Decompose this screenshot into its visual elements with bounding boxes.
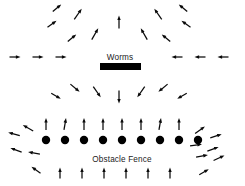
worms-field-arrow bbox=[158, 84, 167, 92]
worms-field-arrow bbox=[47, 21, 56, 27]
fence-dot bbox=[156, 136, 164, 144]
fence-field-arrow bbox=[139, 118, 142, 130]
arrow-head-icon bbox=[44, 118, 47, 123]
worms-field-arrow bbox=[181, 21, 190, 27]
fence-field-arrow bbox=[124, 168, 127, 179]
fence-field-arrow bbox=[82, 118, 85, 130]
arrow-head-icon bbox=[94, 28, 98, 33]
arrow-head-icon bbox=[16, 55, 21, 58]
worms-field-arrow bbox=[137, 87, 144, 98]
worms-bar bbox=[100, 63, 141, 70]
fence-dot bbox=[80, 136, 88, 144]
arrow-head-icon bbox=[218, 55, 223, 58]
arrow-head-icon bbox=[168, 168, 171, 173]
worms-field-arrow bbox=[154, 9, 161, 20]
fence-field-arrow bbox=[146, 168, 149, 179]
fence-field-arrow bbox=[102, 168, 105, 179]
arrow-head-icon bbox=[10, 148, 15, 151]
worms-field-arrow bbox=[117, 16, 120, 29]
arrow-head-icon bbox=[102, 168, 105, 173]
fence-field-arrow bbox=[31, 167, 40, 173]
arrow-head-icon bbox=[214, 147, 219, 150]
arrow-head-icon bbox=[39, 55, 44, 58]
fence-field-arrow bbox=[207, 147, 218, 151]
fence-field-arrow bbox=[80, 168, 83, 179]
arrow-head-icon bbox=[159, 118, 162, 123]
arrow-head-icon bbox=[177, 118, 180, 123]
fence-field-arrow bbox=[120, 118, 123, 130]
worms-label: Worms bbox=[107, 53, 134, 62]
arrow-head-icon bbox=[58, 168, 61, 173]
arrow-head-icon bbox=[177, 95, 182, 99]
arrow-head-icon bbox=[28, 151, 33, 154]
fence-dot bbox=[175, 136, 183, 144]
arrow-head-icon bbox=[220, 155, 225, 158]
fence-vector-field bbox=[8, 118, 224, 179]
fence-field-arrow bbox=[28, 151, 40, 154]
worms-field-arrow bbox=[70, 84, 79, 92]
vector-field-figure: Worms Obstacle Fence bbox=[0, 0, 245, 186]
fence-field-arrow bbox=[159, 118, 162, 130]
arrow-head-icon bbox=[141, 28, 145, 33]
worms-field-arrow bbox=[51, 93, 61, 99]
fence-field-arrow bbox=[214, 155, 225, 160]
arrow-head-icon bbox=[64, 118, 67, 123]
fence-field-arrow bbox=[196, 154, 208, 157]
fence-dot bbox=[99, 136, 107, 144]
arrow-head-icon bbox=[101, 118, 104, 123]
worms-field-arrow bbox=[218, 55, 229, 58]
fence-field-arrow bbox=[10, 148, 21, 152]
worms-field-arrow bbox=[195, 55, 206, 58]
worms-field-arrow bbox=[177, 93, 187, 99]
fence-dot bbox=[194, 136, 202, 144]
worms-field-arrow bbox=[74, 9, 81, 20]
arrow-head-icon bbox=[8, 132, 13, 135]
fence-field-arrow bbox=[44, 118, 47, 130]
fence-dot bbox=[118, 136, 126, 144]
fence-field-arrow bbox=[23, 125, 33, 131]
arrow-head-icon bbox=[195, 55, 200, 58]
worms-field-arrow bbox=[179, 4, 187, 11]
obstacle-fence-label: Obstacle Fence bbox=[92, 155, 152, 164]
fence-field-arrow bbox=[210, 134, 221, 138]
fence-field-arrow bbox=[195, 127, 205, 134]
arrow-head-icon bbox=[82, 118, 85, 123]
arrow-head-icon bbox=[80, 168, 83, 173]
arrow-head-icon bbox=[124, 168, 127, 173]
arrow-head-icon bbox=[23, 125, 28, 129]
figure-canvas: Worms Obstacle Fence bbox=[0, 0, 245, 186]
worms-field-arrow bbox=[33, 55, 44, 58]
worms-field-arrow bbox=[53, 4, 61, 11]
arrow-head-icon bbox=[203, 154, 208, 157]
worms-field-arrow bbox=[56, 55, 67, 58]
fence-field-arrow bbox=[168, 168, 171, 179]
worms-field-arrow bbox=[92, 28, 99, 39]
fence-dot bbox=[42, 136, 50, 144]
arrow-head-icon bbox=[117, 16, 120, 21]
fence-field-arrow bbox=[58, 168, 61, 179]
worms-field-arrow bbox=[141, 28, 148, 39]
worms-field-arrow bbox=[117, 91, 120, 104]
arrow-head-icon bbox=[62, 55, 67, 58]
fence-dots bbox=[42, 136, 202, 144]
arrow-head-icon bbox=[120, 118, 123, 123]
worms-field-arrow bbox=[172, 55, 183, 58]
fence-dot bbox=[61, 136, 69, 144]
arrow-head-icon bbox=[117, 99, 120, 104]
worms-field-arrow bbox=[68, 34, 76, 41]
arrow-head-icon bbox=[172, 55, 177, 58]
fence-field-arrow bbox=[8, 132, 20, 136]
fence-field-arrow bbox=[64, 118, 67, 130]
fence-dot bbox=[137, 136, 145, 144]
fence-field-arrow bbox=[199, 169, 209, 175]
worms-field-arrow bbox=[10, 55, 21, 58]
arrow-head-icon bbox=[217, 134, 222, 137]
arrow-head-icon bbox=[139, 118, 142, 123]
fence-field-arrow bbox=[177, 118, 180, 130]
worms-field-arrow bbox=[162, 34, 170, 41]
worms-field-arrow bbox=[93, 87, 100, 98]
arrow-head-icon bbox=[56, 95, 61, 99]
arrow-head-icon bbox=[146, 168, 149, 173]
arrow-head-icon bbox=[204, 169, 209, 173]
fence-field-arrow bbox=[101, 118, 104, 130]
